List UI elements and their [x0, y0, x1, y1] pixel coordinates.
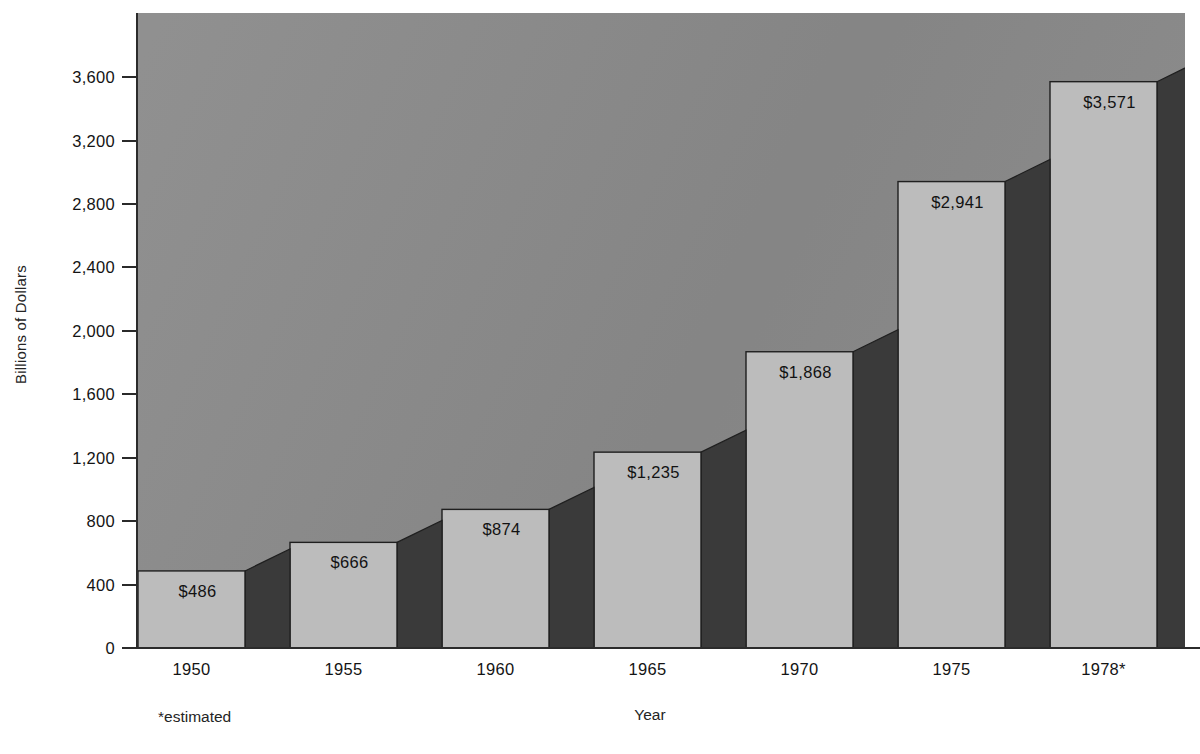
bar-side-face	[397, 520, 442, 648]
footnote: *estimated	[158, 708, 231, 726]
x-tick-label-1960: 1960	[477, 660, 515, 679]
bar-side-face	[1157, 60, 1185, 648]
y-tick-mark	[122, 584, 137, 586]
bar-group: $1,868	[746, 330, 898, 648]
y-tick-label: 2,000	[72, 321, 115, 340]
y-tick-label: 1,600	[72, 385, 115, 404]
bar-group: $486	[138, 549, 290, 648]
x-tick-label-1955: 1955	[325, 660, 363, 679]
y-tick-label: 800	[87, 512, 115, 531]
bar-value-label: $3,571	[1083, 93, 1135, 111]
x-axis-line	[122, 647, 1200, 649]
y-axis-ticks: 04008001,2001,6002,0002,4002,8003,2003,6…	[0, 0, 137, 754]
y-tick-label: 2,400	[72, 258, 115, 277]
y-tick-label: 3,200	[72, 131, 115, 150]
y-tick-mark	[122, 393, 137, 395]
plot-area: $3,571$2,941$1,868$1,235$874$666$486	[137, 13, 1185, 648]
bar-value-label: $666	[331, 553, 369, 571]
x-tick-label-1950: 1950	[173, 660, 211, 679]
bar-side-face	[853, 330, 898, 648]
y-tick-mark	[122, 266, 137, 268]
bar-side-face	[245, 549, 290, 648]
y-tick-mark	[122, 140, 137, 142]
y-tick-label: 400	[87, 575, 115, 594]
bar-group: $1,235	[594, 430, 746, 648]
y-tick-label: 0	[106, 639, 115, 658]
y-tick-label: 3,600	[72, 68, 115, 87]
bar-front-face	[594, 452, 701, 648]
bar-side-face	[549, 487, 594, 648]
bar-side-face	[701, 430, 746, 648]
x-tick-label-1970: 1970	[781, 660, 819, 679]
x-axis-ticks: 1950195519601965197019751978*	[137, 660, 1185, 690]
y-axis-line	[136, 13, 138, 648]
y-tick-mark	[122, 457, 137, 459]
bar-front-face	[1050, 82, 1157, 648]
bar-group: $874	[442, 487, 594, 648]
bar-group: $666	[290, 520, 442, 648]
y-tick-mark	[122, 330, 137, 332]
x-tick-label-1965: 1965	[629, 660, 667, 679]
y-tick-label: 2,800	[72, 194, 115, 213]
bar-value-label: $1,235	[627, 463, 679, 481]
y-tick-mark	[122, 203, 137, 205]
bar-value-label: $2,941	[931, 193, 983, 211]
bar-side-face	[1005, 160, 1050, 648]
bar-front-face	[898, 182, 1005, 648]
bar-group: $3,571	[1050, 60, 1185, 648]
y-tick-mark	[122, 76, 137, 78]
x-tick-label-1978: 1978*	[1081, 660, 1126, 679]
y-tick-mark	[122, 520, 137, 522]
bar-value-label: $874	[483, 520, 521, 538]
bar-front-face	[746, 352, 853, 648]
bar-group: $2,941	[898, 160, 1050, 648]
bar-value-label: $486	[179, 582, 217, 600]
bar-chart: Billions of Dollars 04008001,2001,6002,0…	[0, 0, 1200, 754]
x-tick-label-1975: 1975	[933, 660, 971, 679]
y-tick-label: 1,200	[72, 448, 115, 467]
bars-group: $3,571$2,941$1,868$1,235$874$666$486	[137, 13, 1185, 648]
bar-value-label: $1,868	[779, 363, 831, 381]
